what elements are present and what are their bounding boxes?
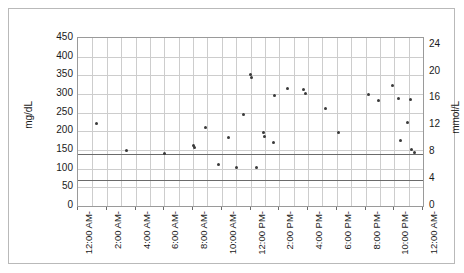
x-axis-tick-label: 10:00 PM- — [399, 211, 410, 255]
x-axis-tick-mark — [250, 207, 251, 210]
data-point — [255, 166, 258, 169]
data-point — [304, 92, 307, 95]
y-axis-right-tick: 20 — [429, 66, 440, 76]
data-point — [273, 94, 276, 97]
data-point — [337, 131, 340, 134]
x-axis-tick-mark — [278, 207, 279, 210]
data-point — [193, 146, 196, 149]
data-point — [227, 136, 230, 139]
y-axis-left-tick: 50 — [62, 181, 73, 191]
data-point — [272, 141, 275, 144]
x-axis-tick-label: 4:00 AM- — [140, 211, 151, 249]
x-axis-tick-label: 12:00 AM- — [428, 211, 439, 254]
data-point — [286, 87, 289, 90]
x-axis-tick-mark — [163, 207, 164, 210]
data-point — [262, 131, 265, 134]
x-axis: 12:00 AM-2:00 AM-4:00 AM-6:00 AM-8:00 AM… — [77, 209, 424, 271]
data-point — [250, 76, 253, 79]
horizontal-gridline — [78, 113, 423, 114]
data-point — [409, 98, 412, 101]
data-point — [235, 166, 238, 169]
data-point — [95, 122, 98, 125]
x-axis-tick-label: 8:00 AM- — [198, 211, 209, 249]
data-point — [302, 88, 305, 91]
data-point — [125, 149, 128, 152]
x-axis-tick-label: 12:00 PM- — [255, 211, 266, 255]
y-axis-left-tick: 200 — [56, 125, 73, 135]
data-point — [324, 107, 327, 110]
data-point — [413, 151, 416, 154]
y-axis-left-tick: 350 — [56, 69, 73, 79]
horizontal-gridline — [78, 169, 423, 170]
data-point — [377, 99, 380, 102]
data-point — [397, 97, 400, 100]
x-axis-tick-label: 10:00 AM- — [226, 211, 237, 254]
y-axis-left-tick: 400 — [56, 51, 73, 61]
data-point — [399, 139, 402, 142]
x-axis-tick-mark — [221, 207, 222, 210]
y-axis-left-tick: 0 — [67, 200, 73, 210]
horizontal-gridline — [78, 57, 423, 58]
x-axis-tick-label: 6:00 PM- — [341, 211, 352, 250]
reference-line-upper-target — [78, 154, 423, 155]
data-point — [163, 152, 166, 155]
y-axis-left-tick: 450 — [56, 32, 73, 42]
y-axis-right-tick: 8 — [429, 146, 435, 156]
chart-frame: 450400350300250200150100500 mg/dL 242016… — [8, 8, 455, 264]
x-axis-tick-mark — [422, 207, 423, 210]
x-axis-tick-label: 6:00 AM- — [169, 211, 180, 249]
y-axis-right-tick: 12 — [429, 119, 440, 129]
data-point — [406, 121, 409, 124]
y-axis-left-tick: 300 — [56, 88, 73, 98]
y-axis-right-tick: 24 — [429, 39, 440, 49]
x-axis-tick-mark — [393, 207, 394, 210]
plot-area — [77, 37, 424, 207]
reference-line-lower-target — [78, 180, 423, 181]
x-axis-tick-label: 12:00 AM- — [83, 211, 94, 254]
y-axis-left: 450400350300250200150100500 — [39, 37, 73, 207]
y-axis-left-tick: 100 — [56, 163, 73, 173]
x-axis-tick-mark — [336, 207, 337, 210]
horizontal-gridline — [78, 131, 423, 132]
x-axis-tick-mark — [365, 207, 366, 210]
chart-screenshot: 450400350300250200150100500 mg/dL 242016… — [0, 0, 464, 273]
y-axis-right-title: mmol/L — [450, 101, 461, 134]
horizontal-gridline — [78, 187, 423, 188]
x-axis-tick-label: 2:00 AM- — [111, 211, 122, 249]
x-axis-tick-label: 2:00 PM- — [284, 211, 295, 250]
y-axis-left-tick: 250 — [56, 107, 73, 117]
data-point — [367, 93, 370, 96]
x-axis-tick-mark — [307, 207, 308, 210]
y-axis-right-tick: 16 — [429, 92, 440, 102]
y-axis-right-tick: 0 — [429, 200, 435, 210]
x-axis-tick-label: 8:00 PM- — [370, 211, 381, 250]
data-point — [242, 113, 245, 116]
x-axis-tick-mark — [106, 207, 107, 210]
x-axis-tick-label: 4:00 PM- — [313, 211, 324, 250]
horizontal-gridline — [78, 94, 423, 95]
y-axis-left-title: mg/dL — [23, 101, 34, 129]
x-axis-tick-mark — [135, 207, 136, 210]
horizontal-gridline — [78, 150, 423, 151]
y-axis-left-tick: 150 — [56, 144, 73, 154]
x-axis-tick-mark — [77, 207, 78, 210]
data-point — [217, 163, 220, 166]
y-axis-right-tick: 4 — [429, 173, 435, 183]
x-axis-tick-mark — [192, 207, 193, 210]
